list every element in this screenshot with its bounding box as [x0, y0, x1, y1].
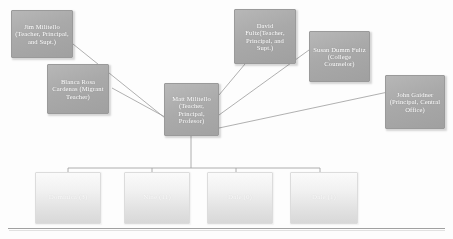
node-label: Dale (0): [208, 193, 272, 203]
node-child-dominica[interactable]: Dominica (3): [35, 172, 101, 224]
node-child-nine[interactable]: Nine (11): [124, 172, 190, 224]
node-jim-militello[interactable]: Jim Militello (Teacher, Principal, and S…: [11, 10, 73, 58]
node-label: Nine (11): [125, 193, 189, 203]
node-blanca-rosa-cardenas[interactable]: Blanca Rosa Cardenas (Migrant Teacher): [47, 64, 109, 114]
node-label: Dale (1): [291, 193, 357, 203]
node-label: David Fultz(Teacher, Principal, and Supt…: [235, 21, 295, 51]
node-child-dale-1[interactable]: Dale (1): [290, 172, 358, 224]
bottom-divider: [8, 228, 445, 229]
node-matt-militello-hub[interactable]: Matt Militello (Teacher, Principal, Prof…: [164, 83, 219, 136]
connector-blanca-to-hub: [112, 88, 165, 117]
node-david-fultz[interactable]: David Fultz(Teacher, Principal, and Supt…: [234, 9, 296, 64]
bottom-divider-shadow: [9, 230, 445, 231]
node-susan-dumm-fultz[interactable]: Susan Dumm Fultz (College Counselor): [309, 31, 370, 82]
diagram-canvas: Jim Militello (Teacher, Principal, and S…: [0, 0, 453, 239]
node-child-dale-0[interactable]: Dale (0): [207, 172, 273, 224]
node-label: Blanca Rosa Cardenas (Migrant Teacher): [48, 77, 108, 100]
node-label: Jim Militello (Teacher, Principal, and S…: [12, 22, 72, 45]
connector-hub-to-john: [219, 92, 388, 128]
node-john-gaidner[interactable]: John Gaidner (Principal, Central Office): [385, 75, 445, 129]
node-label: Susan Dumm Fultz (College Counselor): [310, 45, 369, 68]
node-label: Matt Militello (Teacher, Principal, Prof…: [165, 94, 218, 124]
node-label: Dominica (3): [36, 193, 100, 203]
node-label: John Gaidner (Principal, Central Office): [386, 90, 444, 113]
connector-hub-to-david: [219, 64, 245, 95]
